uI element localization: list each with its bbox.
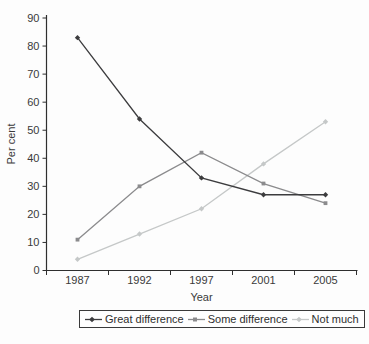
data-point-great-difference-2005: [323, 192, 328, 197]
legend-marker-not-much: [296, 316, 302, 322]
data-point-not-much-1992: [137, 231, 142, 236]
data-point-not-much-1987: [75, 257, 80, 262]
y-tick-label: 70: [27, 68, 39, 80]
chart-plot-area: 010203040506070809019871992199720012005: [0, 0, 369, 306]
x-tick-label: 2005: [313, 274, 337, 286]
legend-item-some-difference: Some difference: [188, 313, 288, 325]
chart-legend: Great differenceSome differenceNot much: [79, 310, 365, 328]
y-tick-label: 0: [33, 264, 39, 276]
x-tick-label: 1992: [127, 274, 151, 286]
x-tick-label: 1997: [189, 274, 213, 286]
series-line-some-difference: [78, 153, 326, 240]
data-point-great-difference-2001: [261, 192, 266, 197]
legend-item-not-much: Not much: [292, 313, 359, 325]
y-tick-label: 40: [27, 152, 39, 164]
series-line-great-difference: [78, 38, 326, 195]
legend-item-great-difference: Great difference: [85, 313, 184, 325]
series-line-not-much: [78, 122, 326, 259]
y-tick-label: 90: [27, 12, 39, 24]
y-tick-label: 50: [27, 124, 39, 136]
y-axis-title: Per cent: [5, 104, 17, 184]
legend-marker-icon: [85, 315, 102, 324]
data-point-some-difference-1992: [138, 184, 142, 188]
legend-label: Great difference: [105, 313, 184, 325]
data-point-some-difference-1997: [200, 151, 204, 155]
x-tick-label: 1987: [65, 274, 89, 286]
legend-marker-great-difference: [89, 316, 95, 322]
legend-marker-icon: [188, 315, 205, 324]
y-tick-label: 60: [27, 96, 39, 108]
x-tick-label: 2001: [251, 274, 275, 286]
x-axis-title: Year: [120, 291, 283, 303]
y-tick-label: 10: [27, 236, 39, 248]
line-chart-figure: 010203040506070809019871992199720012005 …: [0, 0, 369, 344]
legend-label: Not much: [312, 313, 359, 325]
data-point-some-difference-1987: [76, 238, 80, 242]
data-point-some-difference-2005: [324, 201, 328, 205]
legend-marker-some-difference: [193, 317, 197, 321]
y-tick-label: 80: [27, 40, 39, 52]
y-tick-label: 30: [27, 180, 39, 192]
y-tick-label: 20: [27, 208, 39, 220]
legend-label: Some difference: [208, 313, 288, 325]
legend-marker-icon: [292, 315, 309, 324]
data-point-some-difference-2001: [262, 182, 266, 186]
